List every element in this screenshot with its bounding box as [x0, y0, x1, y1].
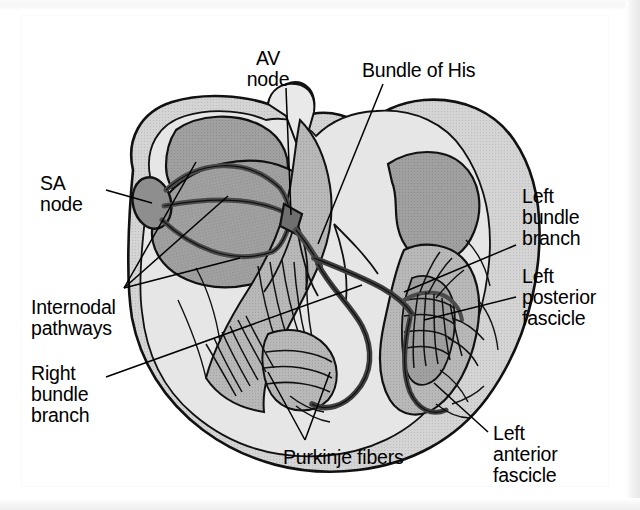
label-right-bundle-branch: Right bundle branch	[31, 363, 89, 426]
heart-body	[127, 83, 539, 472]
label-left-posterior-fascicle: Left posterior fascicle	[522, 266, 596, 329]
label-internodal-pathways: Internodal pathways	[31, 297, 116, 339]
label-purkinje-fibers: Purkinje fibers	[283, 447, 404, 468]
label-sa-node: SA node	[40, 173, 83, 215]
label-left-anterior-fascicle: Left anterior fascicle	[493, 423, 558, 486]
heart-conduction-figure: AV node Bundle of His SA node Left bundl…	[0, 0, 640, 510]
label-av-node: AV node	[222, 48, 314, 90]
label-left-bundle-branch: Left bundle branch	[522, 186, 580, 249]
label-bundle-of-his: Bundle of His	[362, 60, 475, 81]
